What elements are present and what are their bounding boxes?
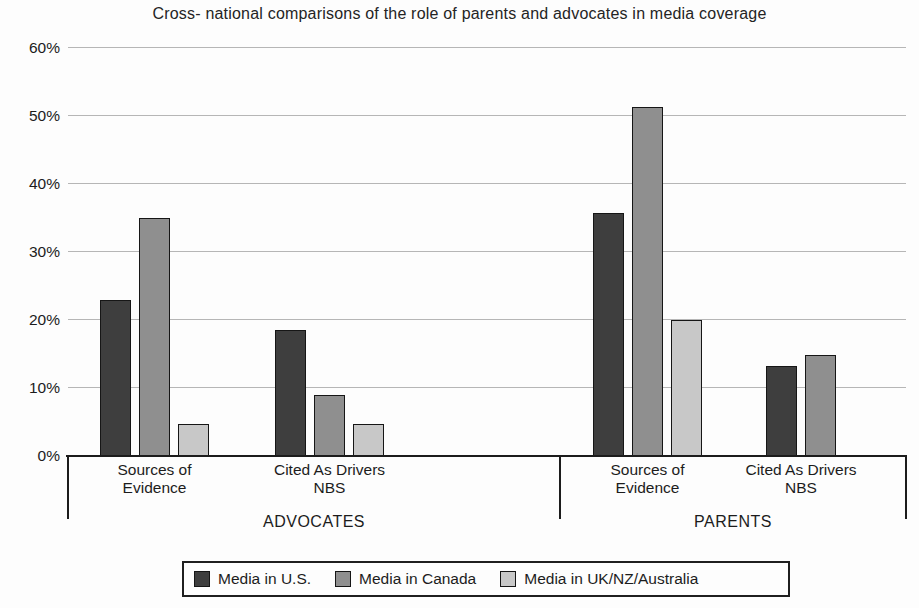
group-label: PARENTS (633, 513, 833, 531)
y-tick-label: 0% (8, 447, 60, 465)
chart-title: Cross- national comparisons of the role … (0, 5, 919, 23)
group-divider (67, 457, 69, 519)
category-label: Cited As Drivers NBS (265, 461, 395, 497)
legend-swatch (500, 571, 516, 587)
bar (671, 320, 702, 456)
bar (178, 424, 209, 456)
legend-item: Media in U.S. (194, 570, 311, 588)
bar (100, 300, 131, 456)
bar (593, 213, 624, 456)
legend-swatch (335, 571, 351, 587)
legend-label: Media in U.S. (218, 570, 311, 588)
legend-item: Media in UK/NZ/Australia (500, 570, 698, 588)
bar (353, 424, 384, 456)
bar (314, 395, 345, 456)
y-tick-label: 10% (8, 379, 60, 397)
y-tick-label: 20% (8, 311, 60, 329)
y-tick-label: 60% (8, 39, 60, 57)
group-divider (905, 457, 907, 519)
gridline (68, 115, 906, 116)
legend-item: Media in Canada (335, 570, 476, 588)
bar (805, 355, 836, 456)
bar (632, 107, 663, 456)
bar (275, 330, 306, 456)
legend-swatch (194, 571, 210, 587)
plot-area (68, 48, 906, 456)
bar (139, 218, 170, 456)
legend-label: Media in UK/NZ/Australia (524, 570, 698, 588)
y-tick-label: 50% (8, 107, 60, 125)
bar (766, 366, 797, 456)
category-label: Sources of Evidence (583, 461, 713, 497)
category-label: Sources of Evidence (90, 461, 220, 497)
group-label: ADVOCATES (214, 513, 414, 531)
category-label: Cited As Drivers NBS (736, 461, 866, 497)
gridline (68, 47, 906, 48)
gridline (68, 319, 906, 320)
chart-figure: Cross- national comparisons of the role … (0, 0, 919, 608)
y-tick-label: 40% (8, 175, 60, 193)
legend-label: Media in Canada (359, 570, 476, 588)
group-divider (559, 457, 561, 519)
legend: Media in U.S.Media in CanadaMedia in UK/… (182, 561, 790, 597)
gridline (68, 251, 906, 252)
y-tick-label: 30% (8, 243, 60, 261)
x-axis-line (66, 455, 907, 457)
gridline (68, 183, 906, 184)
